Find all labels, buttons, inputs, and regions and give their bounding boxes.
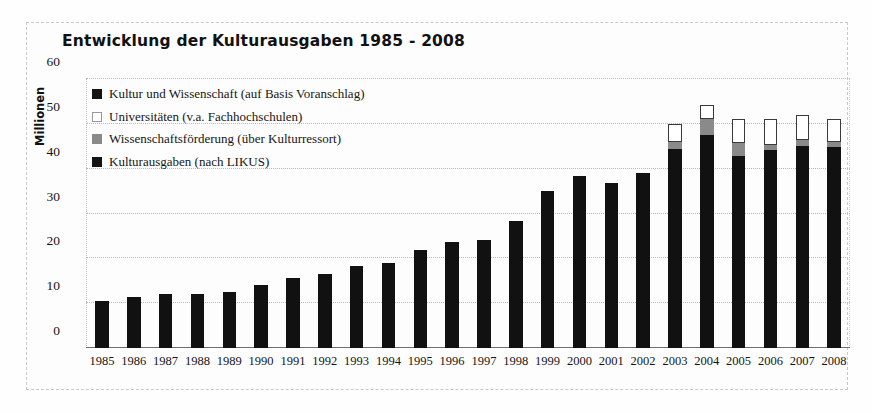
legend-swatch-icon — [92, 157, 102, 167]
bar — [191, 294, 205, 348]
y-axis-tick-label: 10 — [20, 278, 60, 294]
x-axis-tick-label: 2002 — [627, 354, 659, 369]
y-axis-tick-label: 60 — [20, 54, 60, 70]
legend-swatch-icon — [92, 89, 102, 99]
x-axis-tick-label: 2004 — [691, 354, 723, 369]
x-axis-tick-label: 1988 — [182, 354, 214, 369]
x-axis-tick-label: 1999 — [532, 354, 564, 369]
bar — [827, 119, 841, 348]
bar-segment-kulturausgaben — [732, 156, 746, 348]
x-axis-tick-label: 1990 — [245, 354, 277, 369]
bar-segment-kulturausgaben — [382, 263, 396, 348]
bar-segment-kulturausgaben — [764, 150, 778, 348]
page-title: Entwicklung der Kulturausgaben 1985 - 20… — [62, 32, 465, 50]
legend-item: Universitäten (v.a. Fachhochschulen) — [92, 108, 364, 127]
legend-item-label: Wissenschaftsförderung (über Kulturresso… — [109, 131, 341, 147]
x-axis-tick-label: 1987 — [150, 354, 182, 369]
legend-item: Kultur und Wissenschaft (auf Basis Voran… — [92, 85, 364, 104]
bar-segment-kulturausgaben — [509, 221, 523, 348]
bar — [796, 115, 810, 348]
chart-screenshot: Entwicklung der Kulturausgaben 1985 - 20… — [0, 0, 872, 412]
chart-legend: Kultur und Wissenschaft (auf Basis Voran… — [92, 85, 364, 175]
bar-segment-wissenschaftsfoerderung — [700, 119, 714, 135]
bar-segment-kulturausgaben — [700, 135, 714, 348]
x-axis-tick-label: 1986 — [118, 354, 150, 369]
bar-segment-universitaeten — [796, 115, 810, 141]
bar-segment-kulturausgaben — [477, 240, 491, 348]
bar-segment-kulturausgaben — [827, 147, 841, 348]
x-axis-tick-label: 1985 — [86, 354, 118, 369]
x-axis-tick-label: 2005 — [723, 354, 755, 369]
bar — [318, 274, 332, 348]
bar-segment-universitaeten — [764, 119, 778, 145]
legend-swatch-icon — [92, 134, 102, 144]
bar-segment-universitaeten — [732, 119, 746, 143]
x-axis-tick-label: 1992 — [309, 354, 341, 369]
bar-segment-kulturausgaben — [95, 301, 109, 348]
bar-segment-wissenschaftsfoerderung — [668, 142, 682, 149]
x-axis-tick-label: 2008 — [818, 354, 850, 369]
bar-segment-kulturausgaben — [796, 146, 810, 348]
bar — [541, 191, 555, 348]
y-axis-tick-label: 50 — [20, 99, 60, 115]
x-axis-tick-label: 2006 — [755, 354, 787, 369]
bar — [668, 124, 682, 348]
y-axis-label: Millionen — [33, 87, 47, 146]
bar — [764, 119, 778, 348]
x-axis-tick-label: 1989 — [213, 354, 245, 369]
y-axis-tick-label: 0 — [20, 323, 60, 339]
bar — [159, 294, 173, 348]
x-axis-tick-label: 1997 — [468, 354, 500, 369]
y-axis-tick-label: 20 — [20, 233, 60, 249]
bar — [700, 105, 714, 348]
bar-segment-kulturausgaben — [636, 173, 650, 348]
x-axis-tick-label: 1995 — [404, 354, 436, 369]
y-axis-tick-label: 30 — [20, 189, 60, 205]
bar — [414, 250, 428, 348]
bar-segment-kulturausgaben — [541, 191, 555, 348]
bar-segment-kulturausgaben — [445, 242, 459, 348]
bar-segment-kulturausgaben — [350, 266, 364, 348]
bar-segment-kulturausgaben — [159, 294, 173, 348]
bar-segment-kulturausgaben — [573, 176, 587, 348]
x-axis-tick-label: 2000 — [564, 354, 596, 369]
legend-item-label: Universitäten (v.a. Fachhochschulen) — [109, 109, 302, 125]
x-axis-tick-label: 2007 — [786, 354, 818, 369]
bar-segment-kulturausgaben — [668, 149, 682, 348]
x-axis-tick-label: 1993 — [341, 354, 373, 369]
x-axis-tick-label: 1991 — [277, 354, 309, 369]
legend-item-label: Kulturausgaben (nach LIKUS) — [109, 154, 269, 170]
bar — [95, 301, 109, 348]
bar — [605, 183, 619, 348]
bar-segment-wissenschaftsfoerderung — [732, 143, 746, 156]
bar-segment-kulturausgaben — [191, 294, 205, 348]
bar — [382, 263, 396, 348]
legend-item-label: Kultur und Wissenschaft (auf Basis Voran… — [109, 86, 364, 102]
x-axis-tick-label: 1996 — [436, 354, 468, 369]
legend-swatch-icon — [92, 112, 102, 122]
bar — [636, 173, 650, 348]
bar — [254, 285, 268, 348]
legend-item: Wissenschaftsförderung (über Kulturresso… — [92, 130, 364, 149]
bar-segment-kulturausgaben — [127, 297, 141, 348]
bar-segment-kulturausgaben — [414, 250, 428, 348]
bar — [573, 176, 587, 348]
bar — [477, 240, 491, 348]
bar-segment-kulturausgaben — [318, 274, 332, 348]
bar-segment-universitaeten — [700, 105, 714, 118]
bar-segment-kulturausgaben — [605, 183, 619, 348]
bar-segment-universitaeten — [827, 119, 841, 142]
x-axis-tick-label: 2003 — [659, 354, 691, 369]
bar-segment-kulturausgaben — [254, 285, 268, 348]
bar — [732, 119, 746, 348]
bar — [127, 297, 141, 348]
bar-segment-universitaeten — [668, 124, 682, 142]
bar — [509, 221, 523, 348]
y-axis-tick-label: 40 — [20, 144, 60, 160]
bar-segment-kulturausgaben — [286, 278, 300, 348]
x-axis-tick-label: 1994 — [373, 354, 405, 369]
bar — [445, 242, 459, 348]
x-axis-tick-label: 1998 — [500, 354, 532, 369]
x-axis-tick-label: 2001 — [595, 354, 627, 369]
bar — [286, 278, 300, 348]
